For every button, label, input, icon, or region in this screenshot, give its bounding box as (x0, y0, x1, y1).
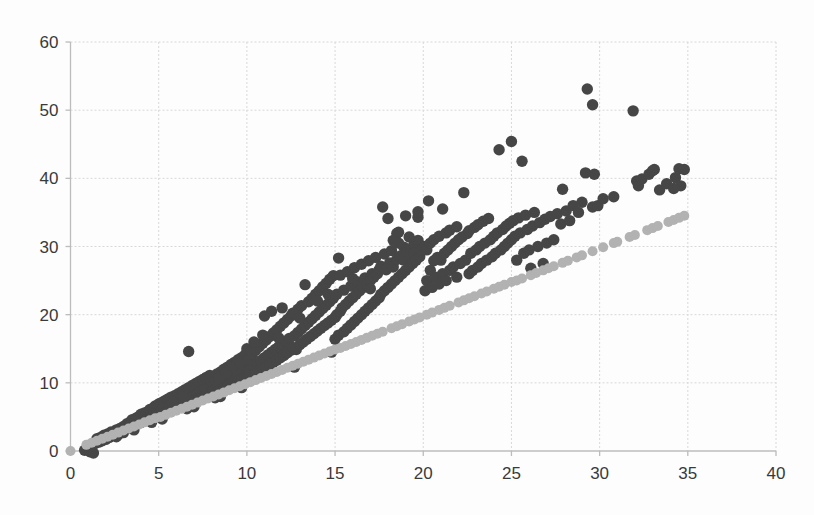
data-point-dark-scatter-cloud (183, 346, 194, 357)
x-tick-label: 15 (326, 464, 345, 483)
y-tick-label: 10 (40, 374, 59, 393)
data-point-dark-scatter-cloud (403, 231, 414, 242)
data-point-dark-scatter-cloud (423, 195, 434, 206)
data-point-gray-reference-line (598, 242, 608, 252)
data-point-dark-scatter-cloud (347, 273, 358, 284)
data-point-gray-reference-line (653, 221, 663, 231)
y-tick-label: 40 (40, 169, 59, 188)
data-point-dark-scatter-cloud (273, 332, 284, 343)
data-point-dark-scatter-cloud (597, 193, 608, 204)
x-tick-label: 30 (590, 464, 609, 483)
data-point-dark-scatter-cloud (529, 207, 540, 218)
data-point-dark-scatter-cloud (412, 206, 423, 217)
data-point-dark-scatter-cloud (458, 187, 469, 198)
data-point-dark-scatter-cloud (451, 271, 462, 282)
data-point-dark-scatter-cloud (557, 184, 568, 195)
y-tick-label: 30 (40, 238, 59, 257)
data-point-dark-scatter-cloud (257, 329, 268, 340)
data-point-dark-scatter-cloud (365, 283, 376, 294)
data-point-dark-scatter-cloud (483, 213, 494, 224)
x-tick-label: 10 (237, 464, 256, 483)
data-point-dark-scatter-cloud (589, 169, 600, 180)
data-point-dark-scatter-cloud (437, 203, 448, 214)
data-point-gray-reference-line (563, 256, 573, 266)
y-tick-label: 60 (40, 33, 59, 52)
y-tick-label: 0 (49, 442, 58, 461)
data-point-dark-scatter-cloud (564, 215, 575, 226)
data-point-dark-scatter-cloud (582, 83, 593, 94)
y-tick-label: 20 (40, 306, 59, 325)
data-point-gray-reference-line (612, 237, 622, 247)
data-point-gray-reference-line (679, 211, 689, 221)
x-tick-label: 25 (502, 464, 521, 483)
data-point-dark-scatter-cloud (608, 191, 619, 202)
data-point-dark-scatter-cloud (451, 221, 462, 232)
scatter-chart: 05101520253035400102030405060 (0, 0, 814, 515)
data-point-gray-reference-line (630, 230, 640, 240)
scanned-chart-page: 05101520253035400102030405060 (0, 0, 814, 515)
data-point-dark-scatter-cloud (587, 99, 598, 110)
data-point-gray-reference-line (66, 446, 76, 456)
x-tick-label: 5 (154, 464, 163, 483)
scatter-chart-figure: 05101520253035400102030405060 (0, 0, 814, 515)
data-point-dark-scatter-cloud (312, 295, 323, 306)
y-tick-label: 50 (40, 101, 59, 120)
data-point-dark-scatter-cloud (548, 234, 559, 245)
x-tick-label: 35 (678, 464, 697, 483)
data-point-dark-scatter-cloud (333, 252, 344, 263)
data-point-dark-scatter-cloud (516, 156, 527, 167)
data-point-dark-scatter-cloud (294, 312, 305, 323)
data-point-dark-scatter-cloud (259, 310, 270, 321)
data-point-dark-scatter-cloud (573, 207, 584, 218)
x-tick-label: 20 (414, 464, 433, 483)
data-point-dark-scatter-cloud (493, 144, 504, 155)
data-point-gray-reference-line (549, 261, 559, 271)
data-point-gray-reference-line (517, 274, 527, 284)
data-point-dark-scatter-cloud (299, 279, 310, 290)
data-point-dark-scatter-cloud (627, 105, 638, 116)
data-point-dark-scatter-cloud (88, 447, 99, 458)
data-point-gray-reference-line (378, 327, 388, 337)
data-point-dark-scatter-cloud (276, 302, 287, 313)
data-point-dark-scatter-cloud (178, 391, 189, 402)
data-point-dark-scatter-cloud (647, 165, 658, 176)
data-point-dark-scatter-cloud (576, 196, 587, 207)
data-point-dark-scatter-cloud (679, 164, 690, 175)
data-point-dark-scatter-cloud (440, 275, 451, 286)
data-point-dark-scatter-cloud (400, 210, 411, 221)
data-point-dark-scatter-cloud (668, 183, 679, 194)
x-tick-label: 0 (66, 464, 75, 483)
data-point-dark-scatter-cloud (388, 235, 399, 246)
data-point-dark-scatter-cloud (382, 213, 393, 224)
data-point-gray-reference-line (577, 250, 587, 260)
data-point-gray-reference-line (588, 246, 598, 256)
data-point-gray-reference-line (445, 301, 455, 311)
data-point-dark-scatter-cloud (377, 201, 388, 212)
x-tick-label: 40 (767, 464, 786, 483)
data-point-dark-scatter-cloud (506, 136, 517, 147)
